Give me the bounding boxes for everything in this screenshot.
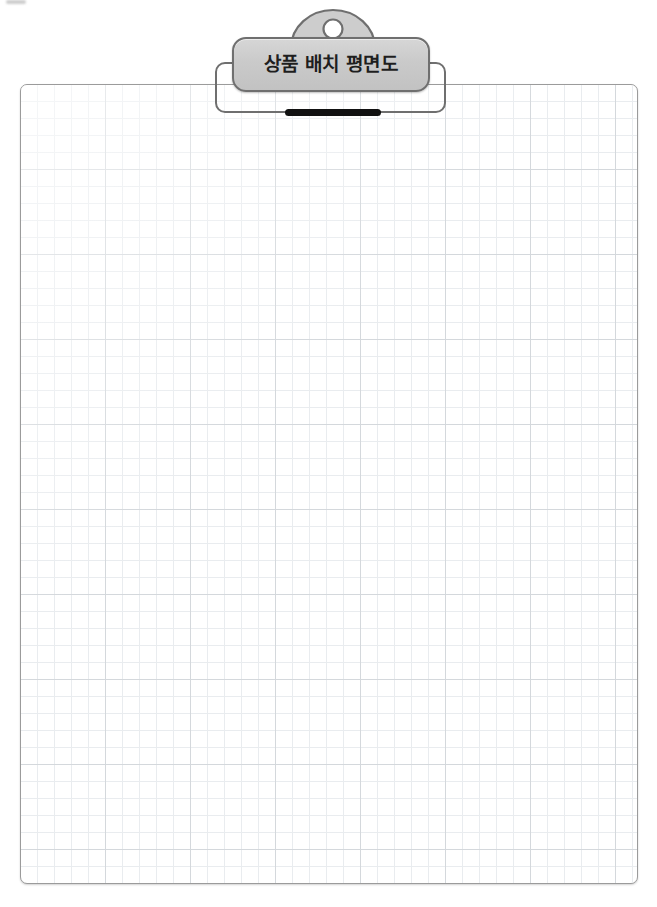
paper-sheen-overlay [21,85,637,883]
grid-major-lines [21,85,637,883]
title-plate[interactable]: 상품 배치 평면도 [232,37,430,92]
hang-hole-circle [324,20,343,39]
corner-artifact [6,0,26,4]
graph-paper-sheet[interactable] [20,84,638,884]
clamp-bar [285,109,381,116]
page-title: 상품 배치 평면도 [264,55,398,74]
grid-minor-lines [21,85,637,883]
clipboard-floor-plan-canvas: 상품 배치 평면도 [0,0,657,907]
